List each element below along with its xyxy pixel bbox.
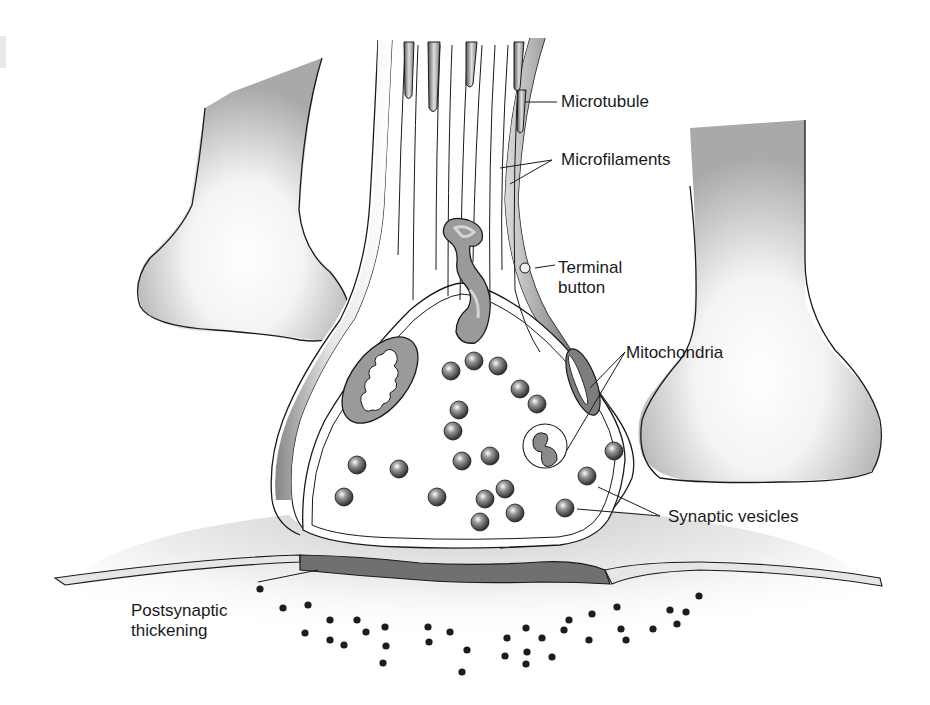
label-microfilaments: Microfilaments: [561, 150, 671, 170]
label-postsynaptic-line1: Postsynaptic: [131, 601, 227, 621]
label-postsynaptic-line2: thickening: [131, 621, 208, 641]
label-mitochondria: Mitochondria: [626, 343, 723, 363]
label-terminal-button-line1: Terminal: [558, 258, 622, 278]
label-microtubule: Microtubule: [561, 92, 649, 112]
label-synaptic-vesicles: Synaptic vesicles: [668, 507, 798, 527]
left-dendritic-spine: [138, 58, 353, 341]
right-dendritic-spine: [638, 120, 881, 483]
label-terminal-button-line2: button: [558, 278, 605, 298]
mitochondrion-cross-section: [523, 424, 567, 468]
synapse-diagram: [0, 0, 930, 705]
